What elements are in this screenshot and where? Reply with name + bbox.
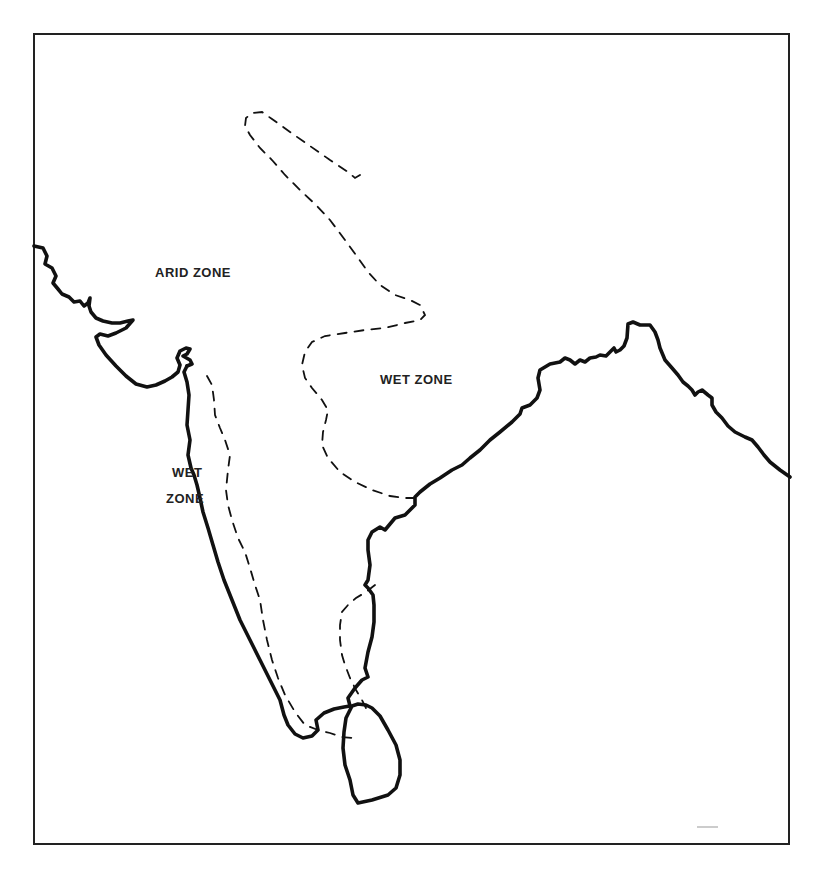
label-wet-zone-west-line2: ZONE — [166, 491, 204, 507]
label-wet-zone-north: WET ZONE — [380, 372, 453, 388]
zone-boundary-west — [207, 376, 358, 738]
zone-boundary-north — [245, 112, 425, 498]
label-wet-zone-west-line1: WET — [172, 465, 202, 481]
coastline-sri-lanka — [343, 704, 400, 803]
label-arid-zone: ARID ZONE — [155, 265, 231, 281]
map-canvas — [0, 0, 817, 877]
